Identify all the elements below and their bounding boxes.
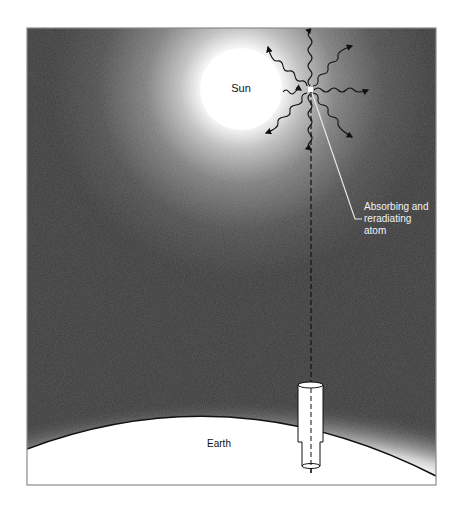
earth-label: Earth [207, 438, 231, 449]
sun-label: Sun [231, 82, 251, 94]
atom-label-line-3: atom [364, 225, 386, 236]
atom-label-line-2: reradiating [364, 213, 411, 224]
atom-label-line-1: Absorbing and [364, 201, 429, 212]
resonance-scattering-diagram: Sun Earth Absorbing and reradiating atom [0, 0, 458, 512]
telescope [298, 382, 323, 475]
absorbing-reradiating-atom [308, 87, 313, 92]
